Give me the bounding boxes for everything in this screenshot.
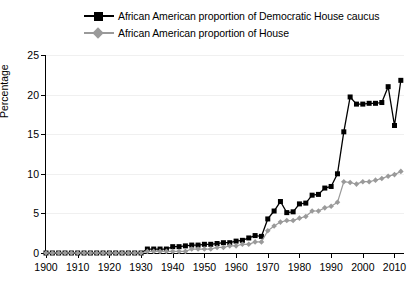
data-point-marker [177, 244, 182, 249]
data-point-marker [398, 169, 404, 175]
legend-label-democratic-caucus: African American proportion of Democrati… [114, 10, 379, 22]
data-point-marker [170, 244, 175, 249]
y-tick-label: 10 [15, 168, 39, 180]
data-point-marker [310, 193, 315, 198]
plot-area [46, 55, 404, 253]
data-point-marker [208, 242, 213, 247]
data-point-marker [386, 84, 391, 89]
y-tick-mark [41, 95, 45, 96]
data-point-marker [385, 173, 391, 179]
data-point-marker [348, 94, 353, 99]
y-tick-label: 15 [15, 128, 39, 140]
data-point-marker [392, 123, 397, 128]
data-point-marker [202, 246, 208, 252]
data-point-marker [253, 233, 258, 238]
chart-root: African American proportion of Democrati… [0, 0, 419, 282]
data-point-marker [278, 219, 284, 225]
data-point-marker [221, 240, 226, 245]
x-tick-label: 2010 [374, 261, 414, 273]
data-point-marker [379, 100, 384, 105]
data-point-marker [259, 239, 265, 245]
chart-legend: African American proportion of Democrati… [84, 7, 379, 41]
data-point-marker [360, 179, 366, 185]
data-point-marker [316, 192, 321, 197]
data-point-marker [322, 186, 327, 191]
data-point-marker [221, 245, 227, 251]
data-point-marker [366, 179, 372, 185]
data-point-marker [341, 179, 347, 185]
legend-label-house: African American proportion of House [114, 27, 289, 39]
legend-item-house: African American proportion of House [84, 24, 379, 41]
y-tick-label: 5 [15, 207, 39, 219]
data-point-marker [278, 199, 283, 204]
data-point-marker [335, 171, 340, 176]
data-point-marker [246, 241, 252, 247]
data-point-marker [246, 235, 251, 240]
x-tick-mark [394, 254, 395, 258]
data-point-marker [379, 176, 385, 182]
diamond-marker-icon [92, 27, 103, 38]
data-point-marker [322, 205, 328, 211]
data-point-marker [373, 177, 379, 183]
data-point-marker [360, 102, 365, 107]
series-democratic-caucus [44, 78, 404, 256]
data-point-marker [354, 102, 359, 107]
data-point-marker [265, 216, 270, 221]
legend-marker-diamond-icon [84, 27, 114, 39]
data-point-marker [284, 218, 290, 224]
data-point-marker [316, 208, 322, 214]
y-tick-mark [41, 55, 45, 56]
x-tick-mark [236, 254, 237, 258]
y-tick-label: 0 [15, 247, 39, 259]
data-point-marker [328, 203, 334, 209]
data-point-marker [297, 201, 302, 206]
data-point-marker [233, 243, 239, 249]
y-tick-label: 20 [15, 89, 39, 101]
data-point-marker [303, 201, 308, 206]
data-point-marker [398, 78, 403, 83]
data-point-marker [341, 129, 346, 134]
data-point-marker [284, 210, 289, 215]
data-point-marker [252, 239, 258, 245]
x-tick-mark [299, 254, 300, 258]
x-tick-mark [204, 254, 205, 258]
data-point-marker [329, 184, 334, 189]
data-point-marker [335, 200, 341, 206]
data-point-marker [208, 246, 214, 252]
square-marker-icon [94, 12, 103, 21]
y-tick-mark [41, 213, 45, 214]
data-point-marker [290, 218, 296, 224]
legend-marker-square-icon [84, 10, 114, 22]
data-point-marker [354, 181, 360, 187]
legend-item-democratic-caucus: African American proportion of Democrati… [84, 7, 379, 24]
y-tick-mark [41, 174, 45, 175]
y-tick-label: 25 [15, 49, 39, 61]
data-point-marker [202, 242, 207, 247]
series-line [46, 80, 401, 253]
y-tick-mark [41, 134, 45, 135]
x-tick-mark [173, 254, 174, 258]
data-point-marker [272, 209, 277, 214]
data-point-marker [367, 101, 372, 106]
y-axis-title: Percentage [0, 64, 10, 118]
data-point-marker [373, 101, 378, 106]
data-point-marker [347, 180, 353, 186]
series-layer [46, 55, 404, 253]
data-point-marker [234, 239, 239, 244]
x-tick-mark [268, 254, 269, 258]
x-tick-mark [363, 254, 364, 258]
x-tick-mark [331, 254, 332, 258]
data-point-marker [291, 209, 296, 214]
data-point-marker [392, 172, 398, 178]
data-point-marker [183, 243, 188, 248]
data-point-marker [297, 215, 303, 221]
